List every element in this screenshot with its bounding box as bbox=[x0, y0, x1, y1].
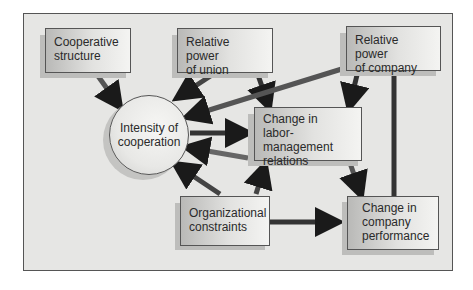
node-change-labor-management: Change in labor-management relations bbox=[254, 107, 362, 161]
node-organizational-constraints: Organizational constraints bbox=[180, 196, 270, 246]
node-label: Relative power of company bbox=[355, 33, 417, 75]
node-label: Intensity of cooperation bbox=[118, 121, 181, 149]
arrow-union-to-intensity bbox=[180, 75, 212, 96]
node-label: Organizational constraints bbox=[189, 206, 266, 234]
arrow-coop-to-intensity bbox=[98, 76, 118, 104]
arrow-org-to-intensity bbox=[178, 166, 220, 194]
node-label: Change in company performance bbox=[362, 201, 429, 243]
arrow-org-to-labor bbox=[256, 168, 264, 194]
node-label: Relative power of union bbox=[186, 35, 229, 77]
node-change-company-performance: Change in company performance bbox=[347, 196, 439, 250]
node-relative-power-company: Relative power of company bbox=[346, 26, 441, 71]
node-label: Change in labor-management relations bbox=[263, 112, 333, 168]
arrow-labor-to-intensity bbox=[190, 148, 248, 158]
node-relative-power-union: Relative power of union bbox=[177, 28, 273, 73]
arrow-company-to-labor bbox=[350, 75, 357, 104]
arrow-union-to-labor bbox=[258, 75, 268, 104]
node-cooperative-structure: Cooperative structure bbox=[45, 28, 131, 73]
node-intensity-of-cooperation: Intensity of cooperation bbox=[109, 95, 189, 175]
arrow-labor-to-performance bbox=[350, 163, 360, 192]
node-label: Cooperative structure bbox=[54, 35, 119, 63]
